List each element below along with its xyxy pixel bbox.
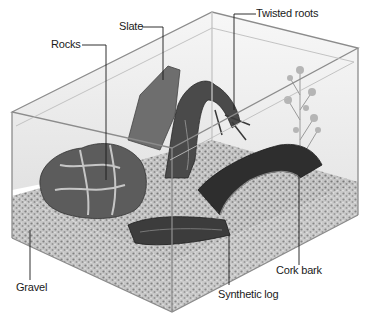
label-gravel: Gravel <box>16 281 47 293</box>
label-rocks: Rocks <box>51 38 81 50</box>
label-twisted-roots: Twisted roots <box>256 7 318 19</box>
label-slate: Slate <box>119 20 143 32</box>
label-synthetic-log: Synthetic log <box>218 288 278 300</box>
aquarium-diagram: Rocks Slate Twisted roots Gravel Synthet… <box>0 0 374 322</box>
label-cork-bark: Cork bark <box>276 264 322 276</box>
